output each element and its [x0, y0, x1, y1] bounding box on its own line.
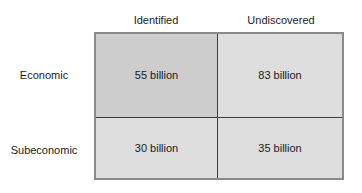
cell-value: 30 billion [135, 142, 178, 154]
cell-value: 83 billion [258, 69, 301, 81]
column-header-undiscovered: Undiscovered [218, 12, 344, 28]
cell-economic-identified: 55 billion [96, 34, 218, 118]
cell-subeconomic-undiscovered: 35 billion [218, 118, 342, 178]
matrix-grid: 55 billion 83 billion 30 billion 35 bill… [94, 32, 344, 180]
column-header-identified: Identified [94, 12, 218, 28]
cell-value: 55 billion [135, 69, 178, 81]
cell-economic-undiscovered: 83 billion [218, 34, 342, 118]
row-label-economic: Economic [0, 67, 88, 83]
cell-subeconomic-identified: 30 billion [96, 118, 218, 178]
row-label-subeconomic: Subeconomic [0, 142, 88, 158]
resource-classification-matrix: Identified Undiscovered Economic Subecon… [0, 0, 362, 193]
cell-value: 35 billion [258, 142, 301, 154]
